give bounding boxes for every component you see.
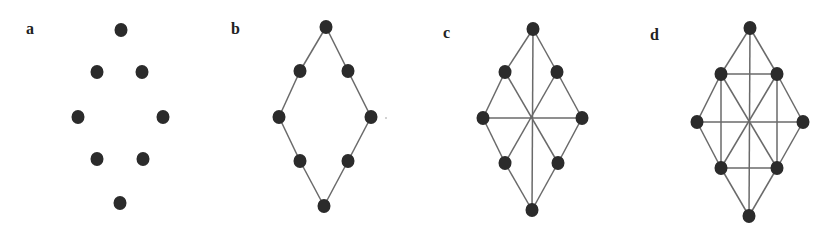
panel-c-edges xyxy=(483,29,582,210)
panel-b: b xyxy=(231,20,378,213)
panel-d: d xyxy=(650,21,810,223)
edge xyxy=(777,74,803,122)
panel-c-label: c xyxy=(443,24,450,41)
node xyxy=(576,111,589,125)
node xyxy=(744,21,757,35)
node xyxy=(797,115,810,129)
node xyxy=(294,154,307,168)
panel-a-nodes xyxy=(72,23,170,210)
edge xyxy=(324,161,348,206)
edge xyxy=(777,122,803,168)
panel-d-edges xyxy=(697,28,803,216)
node xyxy=(715,67,728,81)
edge xyxy=(505,29,533,72)
node xyxy=(114,196,127,210)
edge xyxy=(749,168,777,216)
node xyxy=(318,199,331,213)
node xyxy=(552,156,565,170)
edge xyxy=(300,161,324,206)
node xyxy=(527,22,540,36)
node xyxy=(273,110,286,124)
edge xyxy=(483,118,505,163)
panel-a-label: a xyxy=(26,20,34,37)
node xyxy=(137,152,150,166)
node xyxy=(342,64,355,78)
panel-c: c xyxy=(443,22,589,217)
node xyxy=(294,64,307,78)
node xyxy=(72,110,85,124)
node xyxy=(715,161,728,175)
edge xyxy=(505,163,532,210)
node xyxy=(477,111,490,125)
edge xyxy=(558,118,582,163)
edge xyxy=(483,72,505,118)
node xyxy=(551,65,564,79)
node xyxy=(526,203,539,217)
edge xyxy=(533,29,557,72)
node xyxy=(365,110,378,124)
node xyxy=(91,65,104,79)
panel-b-edges xyxy=(279,27,371,206)
node xyxy=(91,152,104,166)
panel-a: a xyxy=(26,20,170,210)
edge xyxy=(279,71,300,117)
node xyxy=(157,110,170,124)
panel-b-label: b xyxy=(231,20,240,37)
edge xyxy=(326,27,348,71)
panel-b-nodes xyxy=(273,20,378,213)
edge xyxy=(697,122,721,168)
node xyxy=(771,67,784,81)
node xyxy=(691,115,704,129)
edge xyxy=(348,71,371,117)
lattice-figure: a b c d xyxy=(0,0,839,239)
edge xyxy=(279,117,300,161)
edge xyxy=(557,72,582,118)
node xyxy=(342,154,355,168)
node xyxy=(771,161,784,175)
panel-d-label: d xyxy=(650,26,659,43)
node xyxy=(743,209,756,223)
edge xyxy=(721,28,750,74)
edge xyxy=(532,163,558,210)
node xyxy=(115,23,128,37)
node xyxy=(499,65,512,79)
node xyxy=(136,65,149,79)
node xyxy=(499,156,512,170)
edge xyxy=(300,27,326,71)
edge xyxy=(750,28,777,74)
edge xyxy=(348,117,371,161)
edge xyxy=(697,74,721,122)
edge xyxy=(721,168,749,216)
node xyxy=(320,20,333,34)
scan-speck xyxy=(385,117,387,119)
